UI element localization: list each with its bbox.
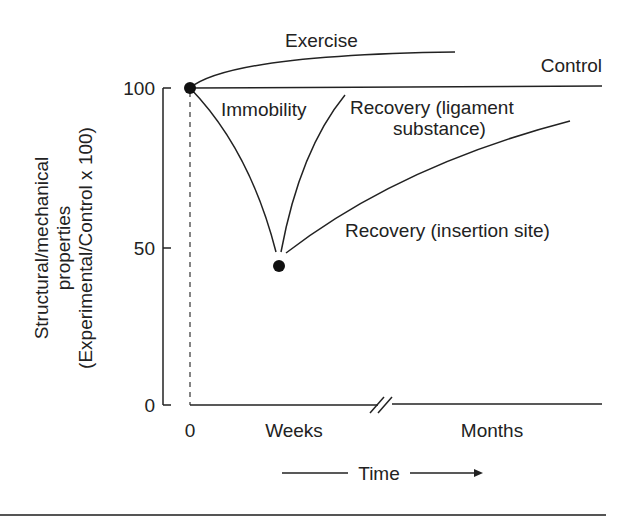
start-point-marker xyxy=(184,82,196,94)
y-title-line3: (Experimental/Control x 100) xyxy=(75,127,96,369)
y-title-line1: Structural/mechanical xyxy=(31,157,52,340)
control-line xyxy=(190,86,602,88)
label-immobility: Immobility xyxy=(221,99,307,120)
y-title-line2: properties xyxy=(53,206,74,291)
x-label-months: Months xyxy=(461,420,523,441)
label-recovery-ligament-2: substance) xyxy=(393,118,486,139)
label-exercise: Exercise xyxy=(285,30,358,51)
x-axis-title: Time xyxy=(358,463,400,484)
y-tick-100: 100 xyxy=(123,78,155,99)
y-axis xyxy=(163,88,171,405)
x-tick-0: 0 xyxy=(185,420,196,441)
label-recovery-insertion: Recovery (insertion site) xyxy=(345,220,550,241)
y-axis-title: Structural/mechanical properties (Experi… xyxy=(31,127,96,369)
minimum-point-marker xyxy=(273,260,285,272)
arrow-head-icon xyxy=(474,469,483,477)
x-axis xyxy=(190,397,602,413)
y-tick-50: 50 xyxy=(134,238,155,259)
y-tick-0: 0 xyxy=(144,395,155,416)
chart: 100 50 0 Structural/mechanical propertie… xyxy=(0,0,634,517)
label-control: Control xyxy=(541,55,602,76)
exercise-curve xyxy=(190,52,455,88)
x-label-weeks: Weeks xyxy=(265,420,323,441)
label-recovery-ligament-1: Recovery (ligament xyxy=(350,97,514,118)
